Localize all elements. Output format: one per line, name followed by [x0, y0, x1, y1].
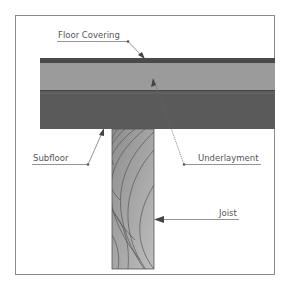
- label-joist: Joist: [154, 208, 239, 223]
- arrowhead-icon: [154, 216, 164, 223]
- svg-text:Underlayment: Underlayment: [198, 153, 259, 163]
- label-floor-covering: Floor Covering: [57, 30, 145, 59]
- svg-text:Subfloor: Subfloor: [33, 153, 69, 163]
- floor-section-diagram: Floor Covering Underlayment Subfloor Joi…: [0, 0, 292, 291]
- label-subfloor: Subfloor: [32, 128, 104, 166]
- joist-beam: [105, 129, 154, 275]
- arrowhead-icon: [99, 128, 104, 136]
- subfloor-layer: [40, 90, 275, 129]
- underlayment-layer: [40, 63, 275, 90]
- svg-text:Floor Covering: Floor Covering: [58, 30, 120, 40]
- svg-text:Joist: Joist: [218, 208, 237, 218]
- floor-covering-layer: [40, 58, 275, 63]
